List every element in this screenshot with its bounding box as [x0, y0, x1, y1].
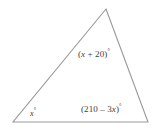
bottom-right-operator: –	[98, 104, 107, 114]
apex-operator: +	[85, 49, 95, 59]
triangle-shape	[0, 0, 156, 135]
bottom-right-degree-symbol: °	[119, 103, 122, 109]
triangle-figure: (x + 20)° x° (210 – 3x)°	[0, 0, 156, 135]
apex-degree-symbol: °	[107, 48, 110, 54]
apex-constant: 20	[95, 49, 104, 59]
bottom-left-degree-symbol: °	[34, 107, 37, 113]
bottom-right-constant: 210	[84, 104, 98, 114]
angle-label-apex: (x + 20)°	[78, 48, 110, 59]
angle-label-bottom-left: x°	[30, 107, 36, 118]
angle-label-bottom-right: (210 – 3x)°	[81, 103, 122, 114]
